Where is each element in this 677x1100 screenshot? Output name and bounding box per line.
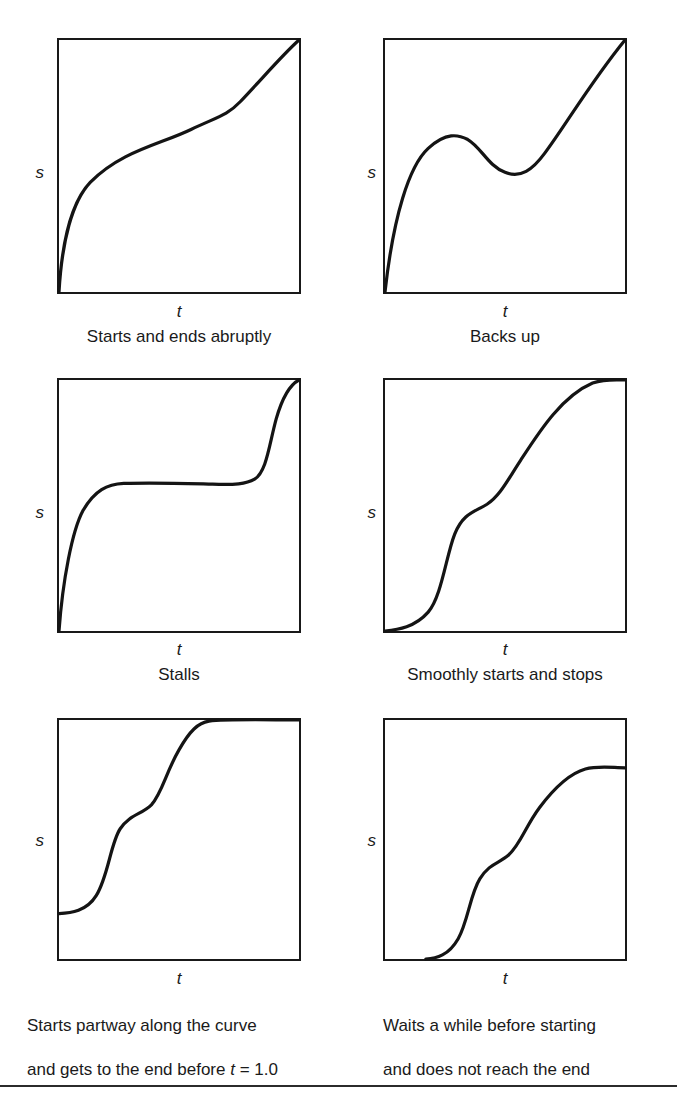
panel-waits-a-while-before-starting: s t Waits a while before starting and do… (326, 680, 677, 1100)
x-axis-label: t (383, 970, 627, 987)
curve-path (385, 40, 625, 292)
curve-path (59, 40, 299, 292)
curve-path (59, 720, 299, 914)
caption-line-1: Waits a while before starting (383, 1015, 677, 1037)
x-axis-label: t (57, 970, 301, 987)
y-axis-label: s (24, 504, 44, 521)
panel-caption: Waits a while before starting and does n… (383, 993, 677, 1100)
curve-path (59, 380, 299, 631)
curve-svg (385, 380, 625, 631)
curve-svg (59, 380, 299, 631)
plot-box (57, 378, 301, 633)
y-axis-label: s (356, 164, 376, 181)
panel-caption: Starts partway along the curve and gets … (27, 993, 337, 1100)
panel-starts-partway-along-the-curve: s t Starts partway along the curve and g… (0, 680, 338, 1100)
plot-box (57, 38, 301, 294)
plot-box (383, 38, 627, 294)
panel-starts-and-ends-abruptly: s t Starts and ends abruptly (0, 0, 338, 360)
caption-line-2: and does not reach the end (383, 1059, 677, 1081)
y-axis-label: s (356, 832, 376, 849)
caption-text-before-t: and gets to the end before (27, 1060, 230, 1079)
plot-box (383, 378, 627, 633)
curve-svg (59, 40, 299, 292)
panel-backs-up: s t Backs up (326, 0, 677, 360)
x-axis-label: t (57, 303, 301, 320)
x-axis-label: t (383, 303, 627, 320)
caption-line-1: Starts partway along the curve (27, 1015, 337, 1037)
y-axis-label: s (356, 504, 376, 521)
y-axis-label: s (24, 164, 44, 181)
footer-divider (0, 1085, 677, 1087)
plot-box (383, 718, 627, 961)
x-axis-label: t (57, 641, 301, 658)
curve-path (426, 767, 625, 959)
curve-svg (385, 720, 625, 959)
panel-stalls: s t Stalls (0, 340, 338, 700)
x-axis-label: t (383, 641, 627, 658)
panel-smoothly-starts-and-stops: s t Smoothly starts and stops (326, 340, 677, 700)
curve-svg (59, 720, 299, 959)
caption-text-after-t: = 1.0 (235, 1060, 278, 1079)
curve-path (385, 380, 625, 631)
caption-line-2: and gets to the end before t = 1.0 (27, 1059, 337, 1081)
easing-curves-figure: s t Starts and ends abruptly s t Backs u… (0, 0, 677, 1100)
y-axis-label: s (24, 832, 44, 849)
plot-box (57, 718, 301, 961)
curve-svg (385, 40, 625, 292)
